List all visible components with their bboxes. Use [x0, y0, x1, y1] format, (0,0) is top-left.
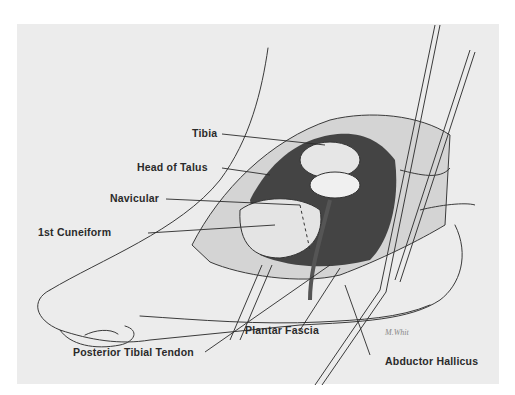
label-posterior-tibial-tendon: Posterior Tibial Tendon — [73, 346, 194, 358]
label-head-of-talus: Head of Talus — [137, 161, 208, 173]
talus-head — [310, 172, 360, 198]
label-abductor-hallicus: Abductor Hallicus — [385, 355, 478, 367]
label-first-cuneiform: 1st Cuneiform — [38, 226, 111, 238]
artist-signature: M.Whit — [384, 328, 410, 337]
label-navicular: Navicular — [110, 192, 159, 204]
label-plantar-fascia: Plantar Fascia — [245, 324, 319, 336]
label-tibia: Tibia — [192, 127, 217, 139]
